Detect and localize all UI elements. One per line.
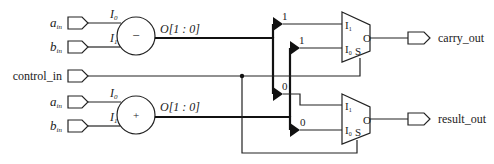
svg-text:I0: I0 [109, 7, 118, 22]
svg-text:O: O [363, 32, 371, 44]
circuit-diagram: ain bin control_in ain bin − I0 I1 [0, 0, 494, 164]
svg-text:I0: I0 [109, 86, 118, 101]
input-port-control: control_in [13, 69, 88, 83]
svg-text:carry_out: carry_out [438, 31, 485, 45]
subtractor-bus [155, 38, 273, 94]
svg-text:S: S [355, 45, 361, 57]
svg-text:0: 0 [300, 116, 306, 128]
mux-result: I1 I0 S O [342, 94, 371, 144]
input-port-sub-b: bin [50, 39, 88, 55]
junction-dot [240, 74, 244, 78]
svg-text:ain: ain [50, 94, 62, 110]
adder-output-label: O[1 : 0] [160, 100, 200, 114]
svg-text:control_in: control_in [13, 69, 62, 83]
plus-symbol: + [133, 109, 139, 121]
svg-text:result_out: result_out [438, 112, 487, 126]
mux-carry: I1 I0 S O [342, 12, 371, 62]
svg-text:S: S [355, 126, 361, 138]
svg-text:1: 1 [299, 34, 305, 46]
minus-symbol: − [132, 28, 139, 43]
input-port-add-b: bin [50, 118, 88, 134]
svg-text:I1: I1 [109, 110, 118, 125]
output-port-result: result_out [408, 112, 487, 126]
svg-text:0: 0 [282, 80, 288, 92]
output-port-carry: carry_out [408, 31, 485, 45]
adder-block: + I0 I1 O[1 : 0] [109, 86, 200, 134]
svg-text:bin: bin [50, 118, 62, 134]
svg-text:bin: bin [50, 39, 62, 55]
wire-control-to-result-sel [242, 76, 357, 153]
svg-text:1: 1 [282, 10, 288, 22]
input-port-sub-a: ain [50, 15, 88, 31]
subtractor-output-label: O[1 : 0] [160, 22, 200, 36]
input-port-add-a: ain [50, 94, 88, 110]
svg-text:ain: ain [50, 15, 62, 31]
tap-add-bit0 [290, 123, 300, 137]
wire-sub-bit0-to-result-i1 [283, 94, 342, 105]
svg-text:O: O [363, 114, 371, 126]
subtractor-block: − I0 I1 O[1 : 0] [109, 7, 200, 55]
adder-bus [155, 117, 290, 130]
svg-text:I1: I1 [109, 31, 118, 46]
